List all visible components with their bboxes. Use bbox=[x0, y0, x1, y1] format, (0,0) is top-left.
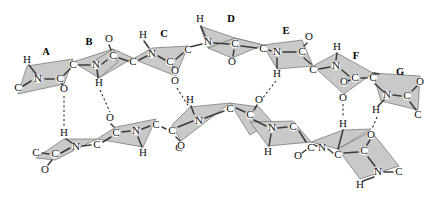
peptide-plane-label-e: E bbox=[282, 25, 289, 36]
bond-c-o-f bbox=[348, 80, 350, 81]
atom-h: H bbox=[372, 103, 380, 115]
atom-o: O bbox=[228, 55, 236, 67]
peptide-plane-label-b: B bbox=[85, 36, 92, 47]
bond-b-c-o5 bbox=[302, 150, 306, 153]
atom-c: C bbox=[414, 108, 421, 120]
atom-h: H bbox=[95, 76, 103, 88]
peptide-plane-label-g: G bbox=[396, 66, 404, 77]
atom-o: O bbox=[416, 75, 424, 87]
atom-n: N bbox=[148, 47, 156, 59]
bond-n-c-g bbox=[393, 95, 401, 96]
atom-o: O bbox=[255, 93, 263, 105]
atom-c: C bbox=[184, 43, 191, 55]
atom-o: O bbox=[340, 75, 348, 87]
atom-c: C bbox=[226, 102, 233, 114]
atom-n: N bbox=[268, 121, 276, 133]
atom-o: O bbox=[177, 139, 185, 151]
atom-c: C bbox=[109, 49, 116, 61]
bond-b-n-calpha bbox=[82, 145, 91, 146]
top-chain-atom-labels: HNCCOCONCHCHNCOCOHNCOCNOCHCHNCOCOONCHC bbox=[14, 12, 424, 120]
atom-h: H bbox=[339, 117, 347, 129]
hydrogen-bond-4 bbox=[262, 81, 276, 99]
atom-h: H bbox=[356, 178, 364, 190]
atom-c: C bbox=[168, 124, 175, 136]
atom-n: N bbox=[92, 58, 100, 70]
peptide-plane-label-a: A bbox=[42, 46, 50, 57]
atom-o: O bbox=[41, 163, 49, 175]
peptide-plane-h2 bbox=[97, 119, 156, 147]
atom-c: C bbox=[69, 58, 76, 70]
bond-b-calpha-c2 bbox=[162, 127, 166, 129]
atom-c: C bbox=[360, 144, 367, 156]
atom-o: O bbox=[171, 74, 179, 86]
atom-n: N bbox=[204, 35, 212, 47]
atom-c: C bbox=[395, 165, 402, 177]
atom-c: C bbox=[14, 81, 21, 93]
atom-c: C bbox=[93, 138, 100, 150]
atom-c: C bbox=[51, 147, 58, 159]
atom-o: O bbox=[339, 91, 347, 103]
atom-c: C bbox=[32, 146, 39, 158]
bond-b-n-calpha4 bbox=[278, 127, 287, 128]
peptide-plane-c bbox=[133, 46, 188, 76]
bond-b-n-c6 bbox=[328, 149, 333, 153]
peptide-plane-label-c: C bbox=[160, 28, 168, 39]
bond-b-c-c bbox=[42, 153, 49, 154]
atom-h: H bbox=[186, 93, 194, 105]
atom-h: H bbox=[23, 53, 31, 65]
atom-c: C bbox=[259, 42, 266, 54]
atom-c: C bbox=[129, 55, 136, 67]
atom-c: C bbox=[369, 71, 376, 83]
atom-o: O bbox=[367, 128, 375, 140]
atom-c: C bbox=[403, 89, 410, 101]
atom-n: N bbox=[132, 124, 140, 136]
atom-o: O bbox=[305, 30, 313, 42]
atom-n: N bbox=[72, 140, 80, 152]
peptide-plane-label-f: F bbox=[353, 50, 359, 61]
atom-h: H bbox=[139, 28, 147, 40]
bond-b-c-calpha5 bbox=[344, 152, 358, 153]
atom-n: N bbox=[383, 88, 391, 100]
atom-o: O bbox=[60, 82, 68, 94]
top-chain-planes bbox=[18, 26, 420, 110]
atom-c: C bbox=[231, 37, 238, 49]
atom-c: C bbox=[246, 108, 253, 120]
bond-calpha-n-d bbox=[190, 44, 202, 47]
beta-sheet-diagram: HNCCOCONCHCHNCOCOHNCOCNOCHCHNCOCOONCHC H… bbox=[0, 0, 434, 201]
atom-h: H bbox=[60, 126, 68, 138]
atom-c: C bbox=[307, 141, 314, 153]
atom-h: H bbox=[139, 146, 147, 158]
peptide-plane-h5 bbox=[250, 121, 311, 146]
atom-n: N bbox=[318, 141, 326, 153]
atom-n: N bbox=[332, 59, 340, 71]
atom-n: N bbox=[374, 165, 382, 177]
atom-c: C bbox=[289, 120, 296, 132]
atom-o: O bbox=[294, 149, 302, 161]
bond-n-c-d bbox=[214, 43, 229, 44]
atom-n: N bbox=[273, 45, 281, 57]
atom-c: C bbox=[298, 45, 305, 57]
peptide-plane-f bbox=[313, 53, 373, 94]
atom-h: H bbox=[273, 67, 281, 79]
atom-h: H bbox=[196, 12, 204, 24]
atom-o: O bbox=[106, 111, 114, 123]
atom-c: C bbox=[351, 71, 358, 83]
bond-calpha-n-e bbox=[269, 50, 271, 51]
atom-o: O bbox=[105, 32, 113, 44]
atom-n: N bbox=[195, 114, 203, 126]
atom-n: N bbox=[34, 72, 42, 84]
bottom-chain-planes bbox=[36, 103, 399, 179]
atom-c: C bbox=[334, 148, 341, 160]
beta-sheet-canvas: HNCCOCONCHCHNCOCOHNCOCNOCHCHNCOCOONCHC H… bbox=[0, 0, 434, 201]
atom-c: C bbox=[112, 126, 119, 138]
bond-b-c-n2 bbox=[122, 131, 130, 132]
atom-h: H bbox=[333, 40, 341, 52]
hydrogen-bond-2 bbox=[100, 90, 110, 112]
peptide-plane-label-d: D bbox=[227, 13, 235, 24]
atom-h: H bbox=[264, 145, 272, 157]
atom-c: C bbox=[152, 118, 159, 130]
atom-c: C bbox=[309, 63, 316, 75]
